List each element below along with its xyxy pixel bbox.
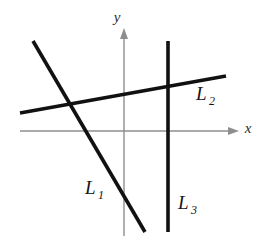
- coordinate-plane-svg: x y L 1 L 2 L 3: [0, 0, 263, 243]
- line-label-L2-subscript: 2: [209, 94, 215, 108]
- line-label-L1-subscript: 1: [98, 188, 104, 202]
- line-label-L1-letter: L: [84, 177, 96, 198]
- x-axis-label: x: [244, 120, 252, 136]
- line-label-L2-letter: L: [195, 83, 207, 104]
- line-diagram-figure: x y L 1 L 2 L 3: [0, 0, 263, 243]
- line-label-L3-letter: L: [177, 192, 189, 213]
- line-label-L3-subscript: 3: [190, 203, 197, 217]
- y-axis-label: y: [112, 9, 121, 25]
